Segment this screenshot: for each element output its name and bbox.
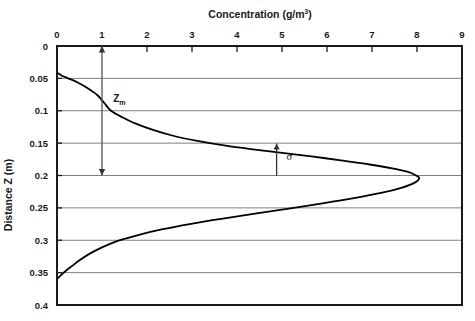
y-axis-title: Distance Z (m): [2, 159, 14, 231]
ytick-label-0.25: 0.25: [30, 202, 49, 213]
ytick-label-0.3: 0.3: [35, 235, 48, 246]
xtick-label-6: 6: [324, 29, 329, 40]
xtick-label-4: 4: [234, 29, 240, 40]
ytick-label-0.15: 0.15: [30, 138, 49, 149]
x-axis-title: Concentration (g/m3): [208, 8, 311, 20]
xtick-label-5: 5: [279, 29, 285, 40]
sigma-label: σ: [287, 152, 293, 162]
chart-figure: 0123456789 00.050.10.150.20.250.30.350.4…: [0, 0, 475, 321]
xtick-label-0: 0: [54, 29, 59, 40]
x-axis-title-close: ): [308, 8, 312, 20]
xtick-label-7: 7: [369, 29, 374, 40]
xtick-label-9: 9: [459, 29, 464, 40]
ytick-label-0: 0: [43, 41, 48, 52]
xtick-label-8: 8: [414, 29, 419, 40]
zm-label-subscript: m: [119, 99, 125, 106]
x-axis-title-base: Concentration (g/m: [208, 8, 304, 20]
xtick-label-3: 3: [189, 29, 194, 40]
ytick-label-0.1: 0.1: [35, 105, 49, 116]
xtick-label-1: 1: [99, 29, 105, 40]
ytick-label-0.4: 0.4: [35, 300, 49, 311]
xtick-label-2: 2: [144, 29, 149, 40]
ytick-label-0.35: 0.35: [30, 267, 49, 278]
ytick-label-0.05: 0.05: [30, 73, 49, 84]
concentration-distance-chart: 0123456789 00.050.10.150.20.250.30.350.4…: [0, 0, 475, 321]
ytick-label-0.2: 0.2: [35, 170, 48, 181]
